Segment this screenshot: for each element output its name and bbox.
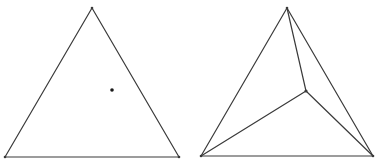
edge-apex-bottom_left — [5, 8, 92, 157]
vertex-bottom_right — [372, 155, 375, 158]
vertex-bottom_left — [4, 156, 7, 159]
edge-bottom_right-interior — [306, 91, 373, 156]
right-subdivided-triangle-figure — [200, 7, 375, 158]
edge-apex-interior — [287, 8, 306, 91]
edge-bottom_left-interior — [201, 91, 306, 156]
vertex-interior — [304, 89, 307, 92]
vertex-bottom_right — [178, 156, 181, 159]
interior-point — [110, 88, 114, 92]
edge-apex-bottom_left — [201, 8, 287, 156]
edge-apex-bottom_right — [92, 8, 179, 157]
vertex-bottom_left — [200, 155, 203, 158]
vertex-apex — [91, 7, 94, 10]
vertex-apex — [286, 7, 289, 10]
edge-apex-bottom_right — [287, 8, 373, 156]
geometry-diagram — [0, 0, 376, 168]
left-triangle-figure — [4, 7, 181, 159]
